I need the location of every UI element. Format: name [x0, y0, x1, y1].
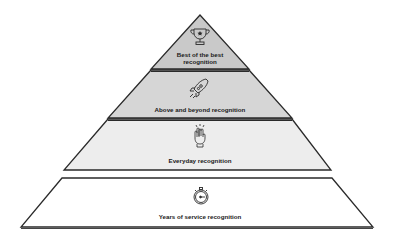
pyramid-shape: [0, 0, 393, 241]
level-2-label: Above and beyond recognition: [120, 106, 280, 113]
level-1-label-line2: recognition: [160, 58, 240, 65]
level-1-label-line1: Best of the best: [160, 51, 240, 58]
level-3-label: Everyday recognition: [120, 157, 280, 164]
level-4-label: Years of service recognition: [100, 213, 300, 220]
level-1-label: Best of the best recognition: [160, 51, 240, 65]
